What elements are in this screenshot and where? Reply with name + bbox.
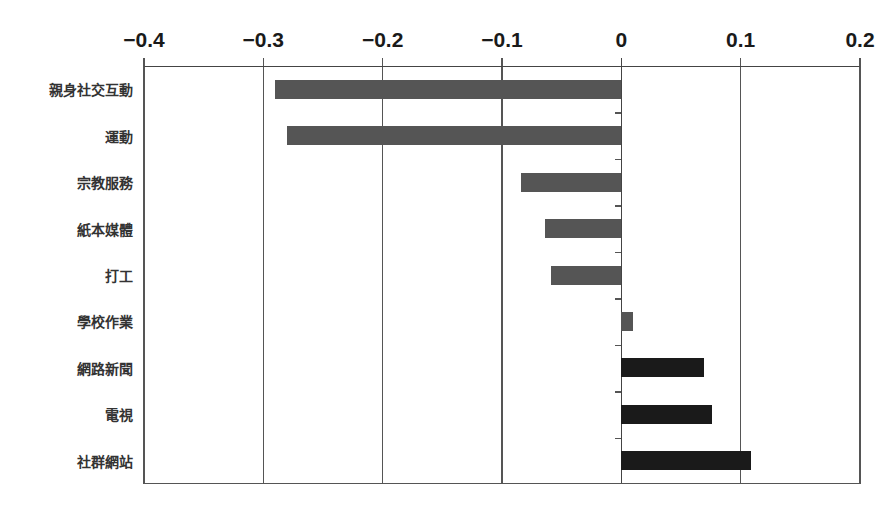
bar: [621, 358, 703, 377]
bar: [621, 312, 633, 331]
bar: [621, 405, 712, 424]
x-tick-label: −0.3: [243, 28, 284, 52]
x-tick-label: −0.1: [481, 28, 522, 52]
bar: [551, 266, 621, 285]
x-tick-label: −0.4: [123, 28, 164, 52]
y-category-label: 打工: [105, 265, 133, 285]
x-tick-label: 0: [615, 28, 627, 52]
y-category-label: 社群網站: [77, 451, 133, 471]
x-tick-label: 0.1: [726, 28, 755, 52]
x-tick-label: −0.2: [362, 28, 403, 52]
y-category-label: 親身社交互動: [49, 79, 133, 99]
bar: [521, 173, 621, 192]
bar: [545, 219, 621, 238]
y-category-label: 宗教服務: [77, 172, 133, 192]
bar: [287, 126, 621, 145]
y-category-label: 網路新聞: [77, 358, 133, 378]
x-tick-label: 0.2: [845, 28, 874, 52]
bar: [621, 451, 751, 470]
y-category-label: 運動: [105, 126, 133, 146]
y-category-label: 紙本媒體: [77, 219, 133, 239]
horizontal-bar-chart: −0.4−0.3−0.2−0.100.10.2 親身社交互動運動宗教服務紙本媒體…: [0, 0, 895, 510]
y-category-label: 學校作業: [77, 311, 133, 331]
y-category-label: 電視: [105, 404, 133, 424]
bar: [275, 80, 621, 99]
